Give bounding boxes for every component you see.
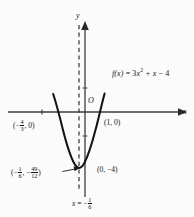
label-y-intercept: (0, −4) [97,166,117,174]
vertex-open: (− [11,168,18,177]
root-left-fraction: 43 [20,119,24,133]
vertex-y-denominator: 12 [31,172,38,179]
x-axis-label: x [183,108,187,116]
root-left-denominator: 3 [20,125,24,132]
label-root-left: (−43, 0) [13,119,34,133]
vertex-x-fraction: 16 [18,166,22,180]
symmetry-variable: x [72,199,75,208]
root-left-close: , 0) [24,121,34,130]
arrow-up-icon [81,21,89,30]
label-vertex: (−16, −4912) [11,166,41,180]
symmetry-fraction: 16 [88,197,92,211]
origin-label: O [88,97,94,105]
quadratic-exponent: 2 [140,67,143,73]
vertex-separator: , − [22,168,30,177]
vertex-y-fraction: 4912 [31,166,38,180]
y-axis-label: y [76,12,80,20]
function-argument: (x) [114,69,123,78]
symmetry-denominator: 6 [88,203,92,210]
function-equation-label: f(x) = 3x2 + x − 4 [112,68,169,78]
constant-term: − 4 [159,69,170,78]
label-root-right: (1, 0) [104,119,120,127]
equals-sign: = [126,69,131,78]
root-left-open: (− [13,121,20,130]
symmetry-equals: = [77,199,81,208]
linear-term: + x [145,69,156,78]
parabola-figure: y x O f(x) = 3x2 + x − 4 (−43, 0) (1, 0)… [0,0,194,217]
vertex-x-denominator: 6 [18,172,22,179]
vertex-close: ) [38,168,41,177]
label-axis-of-symmetry: x = −16 [72,197,92,211]
graph-canvas [0,0,194,217]
